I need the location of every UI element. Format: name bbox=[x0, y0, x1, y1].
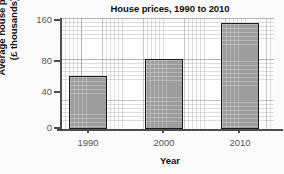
y-tick-80 bbox=[54, 60, 61, 62]
bar-2010 bbox=[221, 23, 259, 129]
y-tick-label-160: 160 bbox=[24, 14, 52, 25]
x-tick-label-2010: 2010 bbox=[215, 137, 265, 148]
y-tick-label-80: 80 bbox=[24, 55, 52, 66]
chart-title: House prices, 1990 to 2010 bbox=[58, 3, 282, 14]
y-tick-label-40: 40 bbox=[24, 86, 52, 97]
x-tick-label-2000: 2000 bbox=[139, 137, 189, 148]
y-tick-40 bbox=[54, 91, 61, 93]
y-axis-title: Average house price (£ thousands) bbox=[0, 0, 26, 94]
y-axis-title-line-1: Average house price bbox=[0, 0, 7, 76]
y-tick-0 bbox=[54, 127, 61, 129]
bar-2000 bbox=[145, 59, 183, 129]
y-tick-label-0: 0 bbox=[24, 122, 52, 133]
x-axis-title: Year bbox=[58, 155, 282, 166]
y-axis-line bbox=[60, 18, 62, 130]
bar-chart: House prices, 1990 to 2010 Average house… bbox=[0, 0, 284, 174]
y-axis-title-line-2: (£ thousands) bbox=[8, 0, 20, 94]
bar-1990 bbox=[69, 76, 107, 129]
y-tick-160 bbox=[54, 19, 61, 21]
x-tick-label-1990: 1990 bbox=[63, 137, 113, 148]
